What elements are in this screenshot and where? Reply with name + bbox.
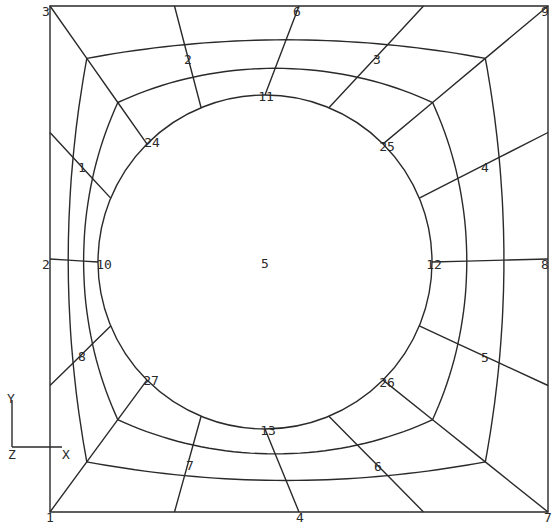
outer-boundary [50, 6, 548, 512]
node-label: 8 [541, 257, 549, 272]
region-label: 5 [481, 350, 489, 365]
axis-triad: Y X Z [7, 391, 70, 462]
node-label: 27 [143, 373, 159, 388]
mesh-radial-line [432, 259, 548, 262]
node-label: 3 [42, 4, 50, 19]
mesh-labels: 123456785369281471011121324252627 [42, 4, 552, 525]
node-label: 7 [544, 510, 552, 525]
node-label: 6 [293, 4, 301, 19]
region-label: 7 [186, 458, 194, 473]
node-label: 2 [42, 257, 50, 272]
region-label: 4 [481, 160, 489, 175]
node-label: 9 [541, 4, 549, 19]
region-label: 2 [184, 52, 192, 67]
region-label: 5 [261, 256, 269, 271]
mesh-radial-line [383, 380, 548, 512]
mesh-radial-line [265, 429, 299, 512]
mesh-radial-line [265, 6, 299, 95]
mesh-diagram: 123456785369281471011121324252627 Y X Z [0, 0, 552, 525]
node-label: 24 [144, 135, 160, 150]
region-label: 8 [78, 349, 86, 364]
node-label: 26 [379, 375, 395, 390]
z-axis-label: Z [8, 447, 16, 462]
mesh-radial-line [50, 259, 98, 262]
region-label: 3 [373, 52, 381, 67]
node-label: 13 [260, 423, 276, 438]
mesh-lines [50, 6, 548, 512]
region-label: 1 [78, 160, 86, 175]
y-axis-label: Y [7, 391, 15, 406]
node-label: 12 [426, 257, 442, 272]
region-label: 6 [374, 459, 382, 474]
node-label: 25 [379, 139, 395, 154]
x-axis-label: X [62, 447, 70, 462]
node-label: 10 [96, 257, 112, 272]
mesh-radial-line [50, 6, 147, 144]
mesh-radial-line [383, 6, 548, 144]
node-label: 11 [258, 89, 274, 104]
mesh-ring-1 [84, 68, 467, 454]
node-label: 1 [46, 510, 54, 525]
node-label: 4 [296, 510, 304, 525]
